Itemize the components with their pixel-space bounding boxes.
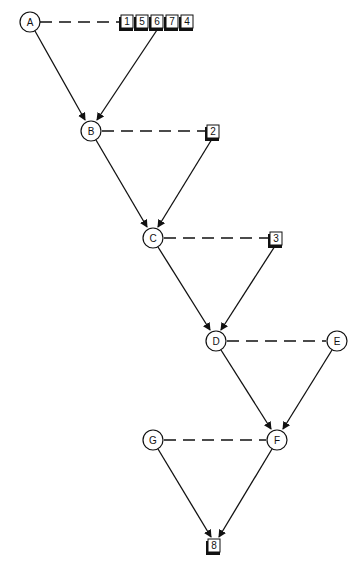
arrow-F-8 [219,449,272,537]
node-label: D [212,336,219,347]
node-A: A [20,12,40,32]
arrow-B-C [96,140,147,227]
box-label: 6 [154,16,160,27]
arrow-2-C [158,139,212,227]
node-B: B [81,121,101,141]
node-G: G [143,430,163,450]
box-8: 8 [206,539,220,555]
node-label: C [149,233,156,244]
box-3: 3 [268,232,282,248]
node-label: B [88,126,95,137]
box-5: 5 [134,15,148,31]
arrow-D-F [221,350,271,429]
node-F: F [267,430,287,450]
node-label: E [334,336,341,347]
node-D: D [206,331,226,351]
node-C: C [143,228,163,248]
diagram-svg: 1 5 6 7 4 [0,0,362,570]
dashed-links [40,22,326,440]
arrow-G-8 [158,449,211,537]
box-label: 7 [169,16,175,27]
box-6: 6 [149,15,163,31]
arrow-E-F [283,350,332,429]
box-4: 4 [179,15,193,31]
arrows [35,30,332,537]
box-label: 8 [211,540,217,551]
node-label: A [27,17,34,28]
box-label: 1 [124,16,130,27]
box-1: 1 [119,15,133,31]
box-label: 2 [210,126,216,137]
box-7: 7 [164,15,178,31]
node-label: F [274,435,280,446]
arrow-A-B [35,31,85,120]
arrow-6-B [97,30,157,120]
box-2: 2 [205,125,219,141]
node-E: E [327,331,347,351]
arrow-C-D [158,247,210,330]
network-diagram: 1 5 6 7 4 [0,0,362,570]
arrow-3-D [221,246,275,330]
node-label: G [149,435,157,446]
box-label: 4 [184,16,190,27]
nodes: A B C D E G F [20,12,347,450]
box-label: 3 [273,233,279,244]
box-label: 5 [139,16,145,27]
